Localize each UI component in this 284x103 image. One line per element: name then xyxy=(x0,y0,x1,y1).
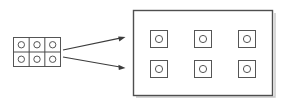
source-cell-circle-r0c1 xyxy=(34,42,40,48)
target-container-outline xyxy=(134,11,273,96)
target-item-r1c2[interactable] xyxy=(239,61,256,78)
source-cell-circle-r1c2 xyxy=(49,56,55,62)
diagram-canvas xyxy=(0,0,284,103)
target-item-circle-r1c0 xyxy=(155,65,162,72)
lower-arrow-line xyxy=(63,57,120,67)
lower-arrow-head-icon xyxy=(118,65,125,70)
target-item-circle-r0c1 xyxy=(199,35,206,42)
source-cell-circle-r1c0 xyxy=(18,56,24,62)
upper-arrow-head-icon xyxy=(118,36,125,41)
target-item-circle-r1c2 xyxy=(243,65,250,72)
source-cell-circle-r0c0 xyxy=(18,42,24,48)
target-container[interactable] xyxy=(134,11,276,98)
target-item-r1c1[interactable] xyxy=(195,61,212,78)
target-item-circle-r0c0 xyxy=(155,35,162,42)
lower-arrow xyxy=(63,57,126,70)
diagram-svg xyxy=(0,0,284,103)
upper-arrow xyxy=(63,36,126,50)
target-item-r0c0[interactable] xyxy=(151,31,168,48)
target-item-r0c2[interactable] xyxy=(239,31,256,48)
source-grid[interactable] xyxy=(14,38,61,67)
source-cell-circle-r1c1 xyxy=(34,56,40,62)
target-item-circle-r0c2 xyxy=(243,35,250,42)
upper-arrow-line xyxy=(63,38,120,50)
source-cell-circle-r0c2 xyxy=(49,42,55,48)
target-item-circle-r1c1 xyxy=(199,65,206,72)
target-item-r0c1[interactable] xyxy=(195,31,212,48)
target-item-r1c0[interactable] xyxy=(151,61,168,78)
